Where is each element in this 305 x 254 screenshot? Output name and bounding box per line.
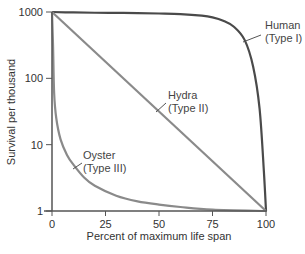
annotations-layer: Human(Type I)Hydra(Type II)Oyster(Type I… — [73, 19, 302, 174]
y-axis-title: Survival per thousand — [5, 59, 17, 165]
oyster-annotation: Oyster(Type III) — [83, 149, 126, 174]
x-tick-label: 0 — [49, 218, 55, 230]
x-axis-title: Percent of maximum life span — [87, 230, 232, 242]
x-tick-label: 25 — [99, 218, 111, 230]
y-ticks: 1101001000 — [19, 6, 52, 217]
human-leader-line — [243, 35, 261, 42]
hydra-leader-line — [156, 103, 166, 112]
hydra-annotation: Hydra(Type II) — [168, 89, 208, 114]
y-tick-label: 10 — [31, 139, 43, 151]
hydra-curve — [52, 12, 266, 211]
y-tick-label: 100 — [25, 72, 43, 84]
y-tick-label: 1 — [37, 205, 43, 217]
x-ticks: 0255075100 — [49, 211, 275, 230]
y-tick-label: 1000 — [19, 6, 43, 18]
x-tick-label: 50 — [153, 218, 165, 230]
curves-layer — [52, 12, 266, 211]
survivorship-chart: 1101001000 0255075100 Human(Type I)Hydra… — [0, 0, 305, 254]
human-annotation: Human(Type I) — [265, 19, 302, 44]
x-tick-label: 100 — [257, 218, 275, 230]
x-tick-label: 75 — [206, 218, 218, 230]
